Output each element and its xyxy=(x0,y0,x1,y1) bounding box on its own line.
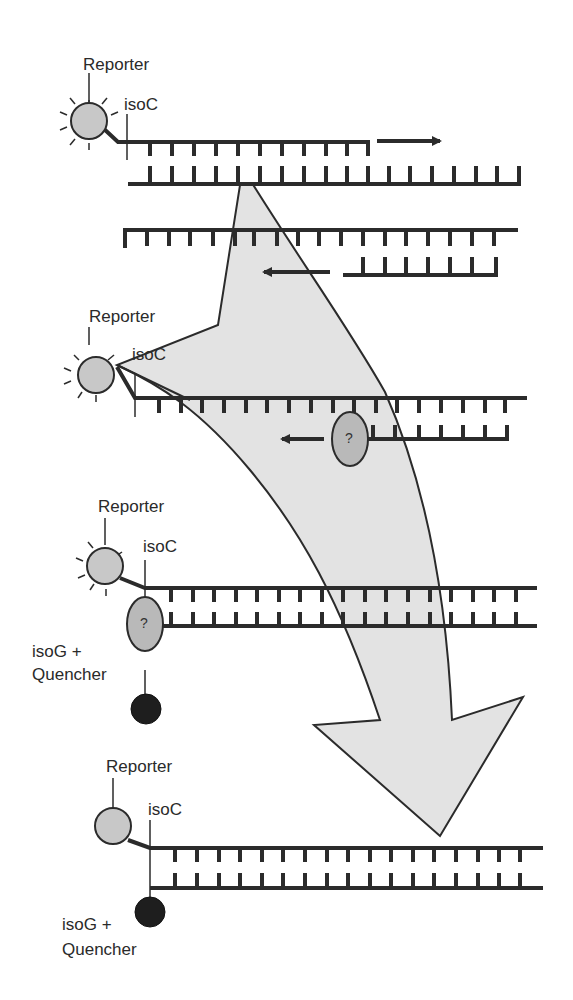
stage-4-quencher-label-2: Quencher xyxy=(62,940,137,959)
stage-4-strands xyxy=(113,778,543,900)
stage-1-reporter xyxy=(60,98,118,150)
stage-1-isoc-label: isoC xyxy=(124,95,158,114)
stage-4-isoc-label: isoC xyxy=(148,800,182,819)
stage-1-strands xyxy=(89,73,519,184)
stage-1-reporter-label: Reporter xyxy=(83,55,149,74)
stage-3-isoc-label: isoC xyxy=(143,537,177,556)
stage-2-polymerase-label: ? xyxy=(345,430,353,446)
stage-4-reporter xyxy=(95,808,131,844)
stage-2-isoc-label: isoC xyxy=(132,345,166,364)
stage-4-quencher xyxy=(135,897,165,927)
stage-2-reporter xyxy=(64,355,114,402)
stage-3-reporter xyxy=(76,542,123,596)
diagram-svg xyxy=(0,0,573,1000)
diagram-canvas: Reporter isoC Reporter isoC ? Reporter i… xyxy=(0,0,573,1000)
stage-3-quencher xyxy=(131,694,161,724)
stage-3-reporter-label: Reporter xyxy=(98,497,164,516)
stage-4-quencher-label-1: isoG + xyxy=(62,915,112,934)
stage-3-polymerase-label: ? xyxy=(140,615,148,631)
stage-2-reporter-label: Reporter xyxy=(89,307,155,326)
process-flow-arrow xyxy=(117,183,523,836)
stage-1b-strands xyxy=(125,230,518,275)
stage-3-quencher-label-2: Quencher xyxy=(32,665,107,684)
stage-4-reporter-label: Reporter xyxy=(106,757,172,776)
stage-3-quencher-label-1: isoG + xyxy=(32,642,82,661)
